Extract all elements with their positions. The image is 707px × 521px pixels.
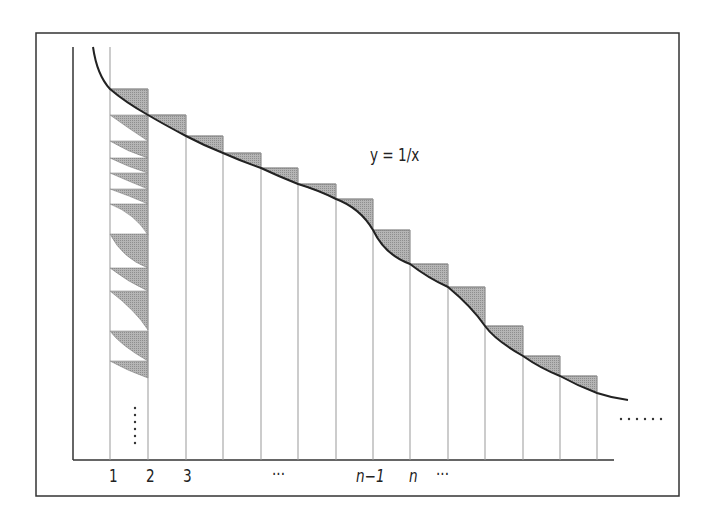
x-tick-n-minus-1: n−1 [356, 466, 385, 486]
harmonic-series-diagram [0, 0, 707, 521]
x-tick-n: n [409, 466, 418, 486]
x-tick-3: 3 [183, 466, 192, 486]
x-tick-2: 2 [146, 466, 155, 486]
x-tick-1: 1 [109, 466, 118, 486]
column1-continuation-dots [134, 407, 136, 444]
column-lines [110, 47, 597, 460]
x-tick-ellipsis-1: ··· [272, 464, 285, 484]
x-tick-ellipsis-2: ··· [436, 464, 449, 484]
right-continuation-dots [620, 418, 662, 420]
stacked-excess-triangles [110, 115, 148, 378]
curve-label: y = 1/x [370, 145, 419, 165]
curve-one-over-x [93, 47, 628, 400]
